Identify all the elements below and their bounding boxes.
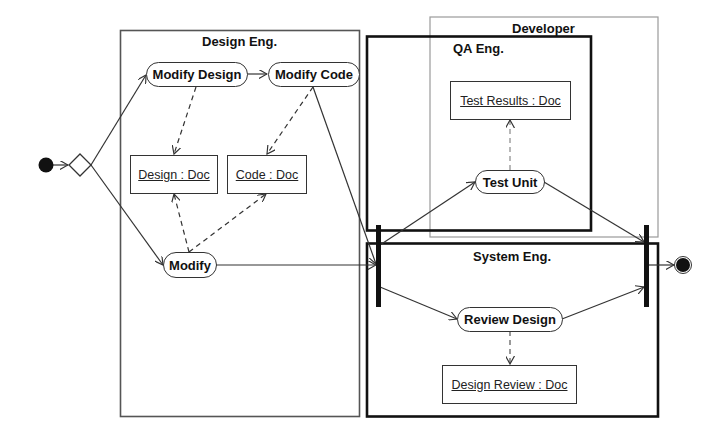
- swimlane-label-design-eng: Design Eng.: [202, 34, 277, 49]
- swimlane-label-system-eng: System Eng.: [473, 249, 551, 264]
- flow-fork-to-test-unit: [380, 182, 475, 245]
- flow-decision-to-modify-design: [91, 75, 146, 165]
- final-node-inner: [676, 258, 690, 272]
- connectors-layer: [0, 0, 723, 440]
- objflow-modify-design-to-design-doc: [174, 87, 196, 154]
- object-design-doc[interactable]: Design : Doc: [130, 155, 218, 194]
- object-code-doc[interactable]: Code : Doc: [227, 155, 307, 194]
- decision-node: [69, 154, 91, 176]
- objflow-modify-to-design-doc: [174, 194, 189, 252]
- fork-bar: [376, 225, 381, 307]
- flow-review-design-to-join: [562, 287, 644, 319]
- objflow-modify-code-to-code-doc: [267, 87, 313, 154]
- object-test-results-doc[interactable]: Test Results : Doc: [450, 81, 571, 120]
- objflow-modify-to-code-doc: [189, 194, 266, 252]
- action-review-design[interactable]: Review Design: [457, 307, 563, 332]
- action-test-unit[interactable]: Test Unit: [475, 170, 545, 194]
- flow-test-unit-to-join: [544, 182, 644, 242]
- flow-fork-to-review-design: [380, 287, 457, 319]
- join-bar: [644, 225, 649, 307]
- design-eng-lane-frame: [121, 31, 360, 417]
- action-modify[interactable]: Modify: [163, 252, 217, 278]
- initial-node: [39, 158, 54, 173]
- object-design-review-doc[interactable]: Design Review : Doc: [442, 365, 577, 404]
- activity-diagram: Design Eng. Developer QA Eng. System Eng…: [0, 0, 723, 440]
- qa-eng-lane-frame: [367, 37, 591, 231]
- swimlane-label-developer: Developer: [512, 21, 575, 36]
- action-modify-design[interactable]: Modify Design: [146, 62, 248, 87]
- swimlane-label-qa-eng: QA Eng.: [453, 41, 504, 56]
- action-modify-code[interactable]: Modify Code: [268, 62, 360, 87]
